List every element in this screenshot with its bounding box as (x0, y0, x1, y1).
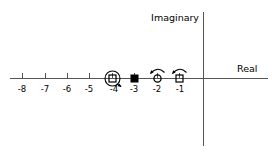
tick-label-neg6: -6 (63, 84, 71, 94)
tick-label-neg1: -1 (176, 84, 184, 94)
axes-group (10, 12, 268, 146)
tick-label-neg7: -7 (41, 84, 49, 94)
tick-label-neg2: -2 (153, 84, 161, 94)
tick-label-neg8: -8 (18, 84, 26, 94)
imaginary-axis-label: Imaginary (151, 12, 199, 23)
tick-label-neg3: -3 (130, 84, 138, 94)
real-axis-label: Real (237, 63, 257, 74)
complex-plane-svg: -8 -7 -6 -5 -4 -3 -2 -1 (0, 0, 272, 152)
pole-zero-plot: -8 -7 -6 -5 -4 -3 -2 -1 (0, 0, 272, 152)
x-axis-tick-labels: -8 -7 -6 -5 -4 -3 -2 -1 (18, 84, 184, 94)
pole-marker-neg3 (131, 75, 138, 82)
pole-square-neg3 (131, 75, 138, 82)
tick-label-neg5: -5 (85, 84, 93, 94)
